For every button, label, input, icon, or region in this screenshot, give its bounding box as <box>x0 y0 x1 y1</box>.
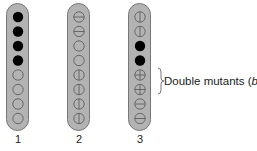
column-label-2: 2 <box>69 133 89 145</box>
column-label-1: 1 <box>8 133 28 145</box>
column-1 <box>6 3 29 131</box>
column-2 <box>67 3 90 131</box>
double-mutants-label: Double mutants (bf) <box>164 75 257 87</box>
column-label-3: 3 <box>130 133 150 145</box>
column-3 <box>128 3 151 131</box>
